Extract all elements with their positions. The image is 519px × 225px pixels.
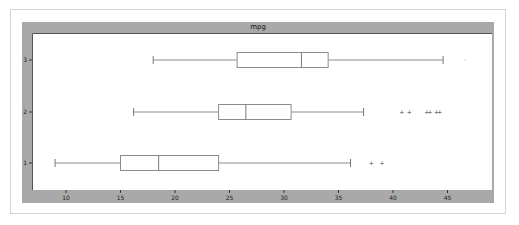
x-tick-label: 10: [62, 194, 70, 201]
boxplot-chart: ++1++++++2·31015202530354045: [0, 0, 519, 225]
outlier-marker: +: [407, 108, 412, 115]
x-tick-label: 20: [171, 194, 179, 201]
outlier-marker: +: [399, 108, 404, 115]
box: [237, 53, 328, 68]
y-tick-label: 1: [23, 159, 27, 166]
outlier-marker: ·: [464, 56, 466, 63]
outlier-marker: +: [380, 159, 385, 166]
y-tick-label: 3: [23, 56, 27, 63]
x-tick-label: 25: [226, 194, 234, 201]
box: [121, 156, 219, 171]
outlier-marker: +: [369, 159, 374, 166]
outlier-marker: +: [437, 108, 442, 115]
outlier-marker: +: [428, 108, 433, 115]
y-tick-label: 2: [23, 108, 27, 115]
x-tick-label: 30: [280, 194, 288, 201]
x-tick-label: 45: [444, 194, 452, 201]
x-tick-label: 40: [389, 194, 397, 201]
x-tick-label: 35: [335, 194, 343, 201]
x-tick-label: 15: [117, 194, 125, 201]
box: [219, 105, 291, 120]
